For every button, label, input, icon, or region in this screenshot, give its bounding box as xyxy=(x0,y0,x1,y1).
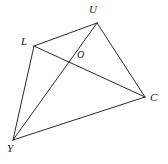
vertex-label-o: O xyxy=(77,50,84,60)
vertex-label-u: U xyxy=(89,4,97,15)
geometry-figure: U L O C Y xyxy=(0,0,168,164)
segment-c-y xyxy=(13,97,145,140)
vertex-label-c: C xyxy=(150,92,157,103)
vertex-label-y: Y xyxy=(7,143,13,154)
vertex-label-l: L xyxy=(21,36,27,47)
figure-canvas xyxy=(0,0,168,164)
segment-l-u xyxy=(34,23,97,46)
